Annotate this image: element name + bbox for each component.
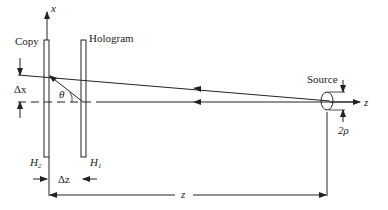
hologram-copy-diagram: x Copy Hologram z θ Δx H2 H1 Δz z Source… (0, 0, 388, 210)
copy-plate-h2 (44, 40, 49, 157)
diagram-canvas: x Copy Hologram z θ Δx H2 H1 Δz z Source… (0, 0, 388, 210)
delta-z-label: Δz (58, 173, 70, 185)
ray-direction-arrow (193, 86, 201, 92)
two-rho-label: 2ρ (338, 124, 349, 136)
z-axis-label: z (363, 96, 369, 108)
source-label: Source (307, 73, 338, 85)
x-axis-label: x (50, 2, 56, 14)
delta-x-label: Δx (14, 83, 27, 95)
h2-label: H2 (29, 156, 42, 170)
hologram-label: Hologram (89, 32, 134, 44)
theta-label: θ (59, 88, 65, 100)
copy-label: Copy (15, 35, 39, 47)
hologram-plate-h1 (81, 40, 86, 157)
z-distance-label: z (180, 188, 186, 200)
h1-label: H1 (89, 156, 101, 170)
axis-direction-arrow (193, 99, 201, 105)
